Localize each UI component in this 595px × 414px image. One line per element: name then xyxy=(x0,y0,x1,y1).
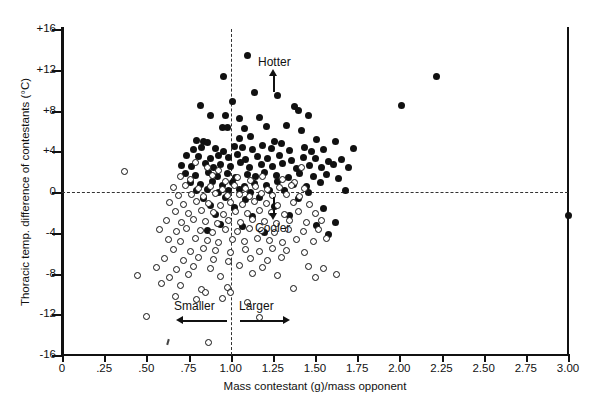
data-point-filled xyxy=(254,153,261,160)
data-point-open xyxy=(251,198,258,205)
data-point-open xyxy=(173,228,180,235)
data-point-open xyxy=(177,173,184,180)
data-point-filled xyxy=(183,152,190,159)
data-point-filled xyxy=(234,151,241,158)
annotation-smaller-arrow-shaft xyxy=(183,320,227,322)
data-point-open xyxy=(231,182,238,189)
data-point-open xyxy=(239,201,246,208)
data-point-open xyxy=(143,313,150,320)
data-point-open xyxy=(163,217,170,224)
annotation-cooler-arrow-shaft xyxy=(273,197,275,214)
data-point-open xyxy=(202,289,209,296)
data-point-open xyxy=(217,273,224,280)
data-point-open xyxy=(241,238,248,245)
data-point-open xyxy=(153,264,160,271)
data-point-filled xyxy=(227,163,234,170)
data-point-open xyxy=(193,198,200,205)
data-point-filled xyxy=(207,112,214,119)
data-point-filled xyxy=(224,170,231,177)
data-point-filled xyxy=(398,102,405,109)
data-point-open xyxy=(266,237,273,244)
data-point-open xyxy=(227,249,234,256)
data-point-filled xyxy=(565,212,572,219)
data-point-open xyxy=(192,235,199,242)
data-point-open xyxy=(209,172,216,179)
data-point-filled xyxy=(335,175,342,182)
data-point-filled xyxy=(300,154,307,161)
data-point-open xyxy=(259,173,266,180)
annotation-smaller-label: Smaller xyxy=(174,299,215,313)
data-point-filled xyxy=(204,139,211,146)
data-point-open xyxy=(263,200,270,207)
x-tick-label: 1.50 xyxy=(293,362,337,374)
data-point-open xyxy=(166,274,173,281)
data-point-filled xyxy=(212,145,219,152)
data-point-filled xyxy=(258,161,265,168)
data-point-filled xyxy=(279,160,286,167)
data-point-filled xyxy=(274,92,281,99)
data-point-open xyxy=(246,225,253,232)
y-tick-mark xyxy=(52,151,62,153)
data-point-open xyxy=(242,246,249,253)
data-point-open xyxy=(256,248,263,255)
data-point-filled xyxy=(264,155,271,162)
y-tick-mark xyxy=(52,314,62,316)
data-point-open xyxy=(215,167,222,174)
data-point-open xyxy=(198,207,205,214)
x-tick-label: 1.75 xyxy=(335,362,379,374)
x-tick-label: 1.25 xyxy=(251,362,295,374)
data-point-open xyxy=(165,236,172,243)
data-point-filled xyxy=(295,107,302,114)
data-point-open xyxy=(158,280,165,287)
data-point-open xyxy=(310,238,317,245)
x-tick-label: .75 xyxy=(167,362,211,374)
x-axis-title: Mass contestant (g)/mass opponent xyxy=(62,380,568,392)
x-tick-label: 2.50 xyxy=(462,362,506,374)
data-point-filled xyxy=(256,114,263,121)
y-tick-mark xyxy=(52,192,62,194)
data-point-open xyxy=(212,190,219,197)
data-point-open xyxy=(185,271,192,278)
data-point-open xyxy=(202,218,209,225)
data-point-open xyxy=(134,272,141,279)
data-point-filled xyxy=(283,122,290,129)
data-point-open xyxy=(293,236,300,243)
data-point-open xyxy=(256,207,263,214)
data-point-open xyxy=(195,254,202,261)
data-point-open xyxy=(306,201,313,208)
x-tick-label: .50 xyxy=(124,362,168,374)
data-point-open xyxy=(295,208,302,215)
data-point-open xyxy=(259,264,266,271)
annotation-larger-label: Larger xyxy=(239,299,274,313)
x-tick-mark xyxy=(315,355,317,362)
annotation-cooler-label: Cooler xyxy=(255,221,290,235)
data-point-filled xyxy=(332,138,339,145)
x-tick-mark xyxy=(62,355,64,362)
data-point-open xyxy=(200,245,207,252)
data-point-open xyxy=(177,238,184,245)
data-point-open xyxy=(214,220,221,227)
data-point-open xyxy=(333,271,340,278)
data-point-open xyxy=(219,295,226,302)
x-tick-mark xyxy=(273,355,275,362)
data-point-filled xyxy=(313,136,320,143)
data-point-open xyxy=(224,192,231,199)
y-tick-mark xyxy=(52,70,62,72)
data-point-filled xyxy=(246,164,253,171)
data-point-open xyxy=(227,199,234,206)
data-point-filled xyxy=(236,135,243,142)
data-point-filled xyxy=(318,164,325,171)
data-point-open xyxy=(205,200,212,207)
data-point-filled xyxy=(350,145,357,152)
annotation-cooler-arrow-head xyxy=(269,213,277,220)
x-tick-mark xyxy=(568,355,570,362)
data-point-open xyxy=(161,255,168,262)
data-point-filled xyxy=(229,98,236,105)
data-point-open xyxy=(190,216,197,223)
data-point-open xyxy=(217,202,224,209)
data-point-open xyxy=(254,235,261,242)
data-point-open xyxy=(234,174,241,181)
data-point-open xyxy=(283,191,290,198)
scan-speck xyxy=(166,339,170,345)
annotation-larger-arrow-head xyxy=(283,316,290,324)
